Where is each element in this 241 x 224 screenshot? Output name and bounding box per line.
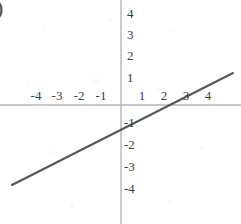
x-tick-label-1: 1 (139, 89, 146, 102)
y-tick-label-neg4: -4 (124, 182, 135, 195)
x-tick-label-neg4: -4 (31, 89, 42, 102)
coordinate-plane (0, 0, 241, 224)
y-tick-label-neg2: -2 (124, 138, 135, 151)
x-tick-label-3: 3 (183, 89, 190, 102)
x-tick-label-2: 2 (161, 89, 168, 102)
x-tick-label-neg3: -3 (52, 89, 63, 102)
y-tick-label-2: 2 (127, 49, 134, 62)
y-tick-label-4: 4 (127, 7, 134, 20)
x-tick-label-4: 4 (205, 89, 212, 102)
x-tick-label-neg2: -2 (74, 89, 85, 102)
graph-figure: ) 4 3 2 1 -1 -2 -3 -4 -4 -3 -2 -1 1 2 3 … (0, 0, 241, 224)
y-tick-label-1: 1 (127, 71, 134, 84)
x-tick-label-neg1: -1 (96, 89, 107, 102)
plotted-line (12, 73, 233, 185)
y-tick-label-neg3: -3 (124, 160, 135, 173)
y-tick-label-neg1: -1 (124, 116, 135, 129)
y-tick-label-3: 3 (127, 28, 134, 41)
